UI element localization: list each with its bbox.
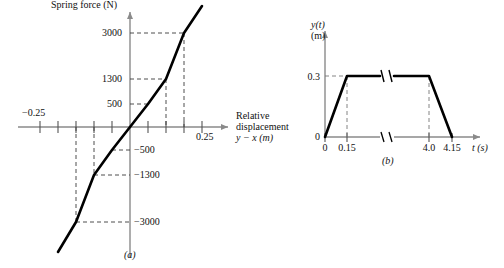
panel-b-plot <box>294 0 504 200</box>
panel-a-xtick-025: 0.25 <box>196 131 214 142</box>
panel-b-y-axis-title-line2: (m) <box>311 30 325 41</box>
panel-b-xtick-40: 4.0 <box>417 142 441 153</box>
panel-a-xtick-minus-025: −0.25 <box>22 107 45 118</box>
panel-b-xtick-415: 4.15 <box>439 142 465 153</box>
panel-b-y-axis <box>322 31 328 137</box>
panel-a-ytick-minus-1300: −1300 <box>134 169 160 180</box>
panel-b-curve <box>325 76 452 137</box>
panel-b-ytick-03: 0.3 <box>294 71 320 82</box>
panel-a-ytick-1300: 1300 <box>78 73 122 84</box>
panel-a-ytick-minus-3000: −3000 <box>134 216 160 227</box>
panel-a-ytick-minus-500: −500 <box>134 144 155 155</box>
panel-b-x-axis <box>325 134 480 140</box>
panel-b-plateau-break-icon <box>381 70 392 82</box>
panel-b-xtick-015: 0.15 <box>334 142 360 153</box>
panel-a-x-axis-title-line3: y − x (m) <box>236 132 273 143</box>
panel-a-x-axis-title-line1: Relative <box>236 110 269 121</box>
figure-container: Spring force (N) 3000 1300 500 −500 −130… <box>0 0 504 268</box>
panel-a-y-axis-title: Spring force (N) <box>51 0 117 10</box>
panel-b-x-axis-break-icon <box>381 132 392 142</box>
panel-b-xtick-0: 0 <box>315 142 335 153</box>
panel-b-ytick-0: 0 <box>294 131 320 142</box>
panel-b-caption: (b) <box>382 155 394 166</box>
panel-b-y-axis-title-line1: y(t) <box>311 19 325 30</box>
panel-b-guides <box>325 76 429 137</box>
panel-a-caption: (a) <box>124 249 136 260</box>
panel-a-ytick-3000: 3000 <box>78 27 122 38</box>
panel-a-x-axis <box>18 124 228 130</box>
panel-a-y-axis <box>127 12 133 258</box>
panel-a-ytick-500: 500 <box>78 98 122 109</box>
panel-a-x-axis-title-line2: displacement <box>236 121 289 132</box>
panel-b-x-axis-title: t (s) <box>472 142 488 153</box>
